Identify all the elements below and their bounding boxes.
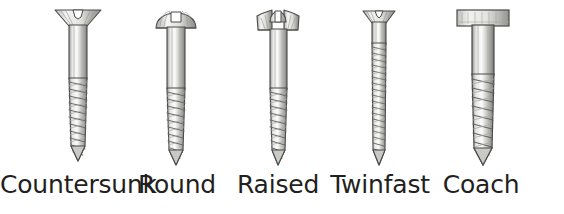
screw-types-illustration-plate: Countersunk Round Raised Twinfast Coach: [0, 0, 564, 214]
countersunk-screw-drawing: [30, 0, 126, 172]
screw-figure-round: [130, 0, 222, 172]
coach-screw-drawing: [435, 0, 529, 172]
round-screw-drawing: [130, 0, 222, 172]
twinfast-screw-drawing: [339, 0, 419, 172]
screw-label-coach: Coach: [432, 168, 530, 202]
screw-label-twinfast: Twinfast: [321, 168, 439, 202]
raised-screw-drawing: [232, 0, 324, 172]
screw-figure-countersunk: [30, 0, 126, 172]
screw-label-raised: Raised: [228, 168, 328, 202]
screw-figure-coach: [435, 0, 529, 172]
screw-figure-twinfast: [339, 0, 419, 172]
screw-figure-raised: [232, 0, 324, 172]
screw-label-round: Round: [127, 168, 227, 202]
screw-labels-row: Countersunk Round Raised Twinfast Coach: [0, 168, 564, 214]
